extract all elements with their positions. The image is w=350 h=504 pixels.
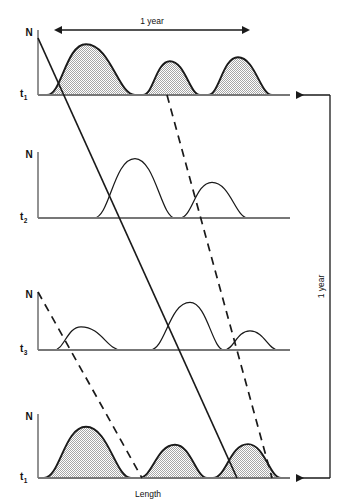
y-axis-label: N xyxy=(25,289,32,300)
time-label-subscript: 2 xyxy=(24,217,28,224)
vertical-span-annotation: 1 year xyxy=(296,95,330,478)
panel-panel-t1-bottom: Nt1 xyxy=(20,411,290,484)
mode-fill-cohort-b xyxy=(139,445,207,478)
mode-curve-cohort-a xyxy=(54,327,121,350)
mode-curve-cohort-b xyxy=(180,182,248,218)
time-label-t3: t3 xyxy=(20,343,28,356)
mode-fill-cohort-c xyxy=(208,57,272,95)
horizontal-span-label: 1 year xyxy=(140,16,164,26)
panel-panel-t2: Nt2 xyxy=(20,149,290,224)
curves-group xyxy=(47,44,272,95)
mode-fill-cohort-b xyxy=(143,61,200,95)
time-label-subscript: 1 xyxy=(24,477,28,484)
mode-curve-cohort-c xyxy=(224,331,278,350)
panels-layer: Nt1Nt2Nt3Nt1 xyxy=(20,27,290,484)
time-label-t1: t1 xyxy=(20,471,28,484)
time-label-subscript: 3 xyxy=(24,349,28,356)
panel-panel-t3: Nt3 xyxy=(20,289,290,356)
time-label-t2: t2 xyxy=(20,211,28,224)
cohort-tracks-layer xyxy=(38,38,272,478)
curves-group xyxy=(94,159,248,218)
y-axis-label: N xyxy=(25,27,32,38)
curves-group xyxy=(44,427,281,478)
mode-fill-cohort-a xyxy=(44,427,131,478)
figure-root: Nt1Nt2Nt3Nt1 1 year1 year Length xyxy=(0,0,350,504)
time-label-t1: t1 xyxy=(20,88,28,101)
x-axis-title: Length xyxy=(135,489,161,499)
y-axis-label: N xyxy=(25,149,32,160)
curves-group xyxy=(54,302,278,350)
horizontal-span-annotation: 1 year xyxy=(62,16,242,30)
figure-canvas: Nt1Nt2Nt3Nt1 1 year1 year Length xyxy=(0,0,350,504)
time-label-subscript: 1 xyxy=(24,94,28,101)
y-axis-label: N xyxy=(25,411,32,422)
vertical-span-label: 1 year xyxy=(316,275,326,299)
solid-cohort-track xyxy=(38,38,237,478)
dashed-cohort-track xyxy=(167,95,272,478)
x-axis-title-group: Length xyxy=(135,489,161,499)
